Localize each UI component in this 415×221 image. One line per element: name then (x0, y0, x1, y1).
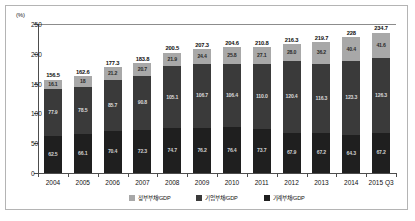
bar-segment-house[interactable]: 67.2 (312, 133, 330, 173)
bar-segment-house[interactable]: 76.2 (193, 128, 211, 173)
chart-frame: (%) 050100150200250 16.177.962.5156.5187… (5, 5, 408, 210)
bar-segment-house[interactable]: 64.3 (342, 135, 360, 173)
x-axis-tick (277, 173, 278, 177)
bar-column[interactable]: 25.8106.476.4204.6 (223, 47, 241, 173)
legend-item[interactable]: 가계부채/GDP (264, 194, 305, 202)
bar-segment-corp[interactable]: 120.4 (283, 61, 301, 133)
bar-segment-house[interactable]: 67.9 (283, 133, 301, 173)
bar-segment-corp[interactable]: 126.3 (372, 58, 390, 133)
bar-segment-gov[interactable]: 40.4 (342, 37, 360, 61)
x-axis-label: 2006 (105, 179, 119, 186)
bar-segment-value: 67.2 (376, 150, 385, 155)
bar-segment-value: 120.4 (286, 94, 298, 99)
bar-segment-corp[interactable]: 90.8 (133, 76, 151, 130)
bar-segment-value: 41.6 (376, 43, 385, 48)
y-axis-label: 200 (31, 50, 32, 57)
bar-segment-house[interactable]: 73.7 (253, 129, 271, 173)
x-axis-label: 2015 Q3 (369, 179, 394, 186)
bar-segment-value: 16.1 (48, 82, 57, 87)
bar-segment-corp[interactable]: 106.7 (193, 64, 211, 128)
bar-group: 16.177.962.5156.51878.566.1162.621.285.7… (38, 24, 396, 173)
bar-column[interactable]: 21.9105.174.7200.5 (163, 53, 181, 173)
x-axis-tick (68, 173, 69, 177)
x-axis-label: 2014 (344, 179, 358, 186)
bar-segment-value: 74.7 (168, 148, 177, 153)
bar-column[interactable]: 28.0120.467.9216.3 (283, 44, 301, 173)
bar-segment-gov[interactable]: 36.2 (312, 42, 330, 64)
bar-segment-corp[interactable]: 77.9 (44, 89, 62, 135)
bar-segment-corp[interactable]: 105.1 (163, 66, 181, 129)
bar-column[interactable]: 41.6126.367.2234.7 (372, 33, 390, 173)
bar-segment-value: 77.9 (48, 110, 57, 115)
bar-segment-value: 110.0 (256, 94, 268, 99)
bar-segment-house[interactable]: 76.4 (223, 127, 241, 173)
bar-column[interactable]: 1878.566.1162.6 (74, 76, 92, 173)
bar-segment-gov[interactable]: 27.1 (253, 47, 271, 63)
plot-area: 050100150200250 16.177.962.5156.51878.56… (38, 24, 396, 173)
x-axis-tick (336, 173, 337, 177)
bar-segment-corp[interactable]: 106.4 (223, 64, 241, 127)
bar-segment-corp[interactable]: 85.7 (104, 80, 122, 131)
bar-segment-value: 72.3 (138, 149, 147, 154)
bar-column[interactable]: 36.2116.367.2219.7 (312, 42, 330, 173)
bar-segment-corp[interactable]: 78.5 (74, 87, 92, 134)
x-axis-tick (247, 173, 248, 177)
legend-swatch-icon (264, 195, 270, 201)
bar-total-label: 216.3 (285, 37, 299, 43)
bar-column[interactable]: 40.4123.364.3228 (342, 37, 360, 173)
bar-segment-value: 76.4 (227, 148, 236, 153)
bar-column[interactable]: 16.177.962.5156.5 (44, 80, 62, 173)
bar-segment-house[interactable]: 70.4 (104, 131, 122, 173)
bar-total-label: 234.7 (374, 25, 388, 31)
bar-segment-gov[interactable]: 28.0 (283, 44, 301, 61)
bar-segment-value: 24.4 (197, 54, 206, 59)
bar-segment-corp[interactable]: 110.0 (253, 64, 271, 130)
y-axis-label: 250 (31, 21, 32, 28)
bar-segment-house[interactable]: 62.5 (44, 136, 62, 173)
bar-column[interactable]: 21.285.770.4177.3 (104, 67, 122, 173)
y-axis-label: 0 (31, 170, 32, 177)
bar-segment-gov[interactable]: 24.4 (193, 49, 211, 64)
bar-segment-corp[interactable]: 116.3 (312, 64, 330, 133)
x-axis-label: 2004 (46, 179, 60, 186)
bar-segment-house[interactable]: 67.2 (372, 133, 390, 173)
legend-swatch-icon (196, 195, 202, 201)
bar-column[interactable]: 24.4106.776.2207.3 (193, 49, 211, 173)
bar-column[interactable]: 20.790.872.3183.8 (133, 63, 151, 173)
bar-segment-gov[interactable]: 20.7 (133, 63, 151, 75)
bar-total-label: 228 (347, 30, 356, 36)
bar-segment-gov[interactable]: 41.6 (372, 33, 390, 58)
bar-segment-house[interactable]: 66.1 (74, 134, 92, 173)
bar-column[interactable]: 27.1110.073.7210.8 (253, 47, 271, 173)
bar-segment-value: 40.4 (347, 47, 356, 52)
bar-segment-house[interactable]: 74.7 (163, 128, 181, 173)
legend-label: 가계부채/GDP (273, 194, 305, 202)
x-axis-label: 2012 (284, 179, 298, 186)
bar-segment-value: 78.5 (78, 108, 87, 113)
bar-segment-gov[interactable]: 25.8 (223, 47, 241, 64)
legend-item[interactable]: 정부부채/GDP (129, 194, 170, 202)
x-axis-tick (307, 173, 308, 177)
x-axis-label: 2011 (255, 179, 269, 186)
x-axis-tick (217, 173, 218, 177)
bar-segment-house[interactable]: 72.3 (133, 130, 151, 173)
bar-segment-gov[interactable]: 21.2 (104, 67, 122, 80)
legend-item[interactable]: 기업부채/GDP (196, 194, 237, 202)
x-axis-tick (38, 173, 39, 177)
x-axis-tick (396, 173, 397, 177)
bar-segment-value: 36.2 (317, 50, 326, 55)
bar-segment-gov[interactable]: 21.9 (163, 53, 181, 66)
legend-swatch-icon (129, 195, 135, 201)
bar-total-label: 156.5 (46, 72, 60, 78)
bar-segment-value: 76.2 (197, 148, 206, 153)
bar-segment-gov[interactable]: 16.1 (44, 80, 62, 90)
y-axis-label: 150 (31, 80, 32, 87)
bar-segment-value: 25.8 (227, 53, 236, 58)
bar-segment-value: 85.7 (108, 103, 117, 108)
bar-segment-gov[interactable]: 18 (74, 76, 92, 87)
bar-segment-value: 64.3 (347, 151, 356, 156)
legend-label: 기업부채/GDP (205, 194, 237, 202)
x-axis-label: 2010 (225, 179, 239, 186)
bar-segment-value: 73.7 (257, 148, 266, 153)
bar-segment-corp[interactable]: 123.3 (342, 61, 360, 134)
